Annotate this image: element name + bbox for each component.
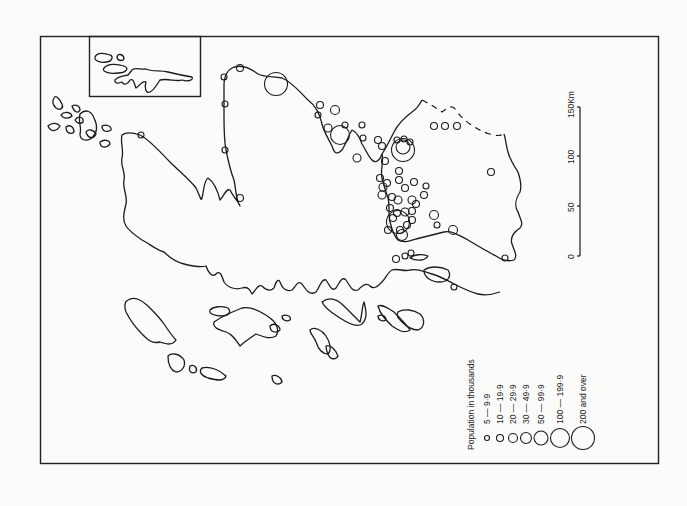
city-marker xyxy=(331,126,350,145)
city-marker xyxy=(402,253,408,259)
legend-label: 200 and over xyxy=(578,374,588,424)
legend-label: 100 — 199·9 xyxy=(555,375,565,424)
city-marker xyxy=(359,122,365,128)
city-marker xyxy=(317,102,324,109)
city-marker xyxy=(402,185,409,192)
city-markers xyxy=(138,65,508,291)
legend-label: 20 — 29·9 xyxy=(508,384,518,424)
scale-tick-150: 150Km xyxy=(566,91,576,118)
city-marker xyxy=(378,191,386,199)
legend-label: 5 — 9·9 xyxy=(482,393,492,424)
legend-symbol xyxy=(551,429,570,448)
legend-symbol xyxy=(497,435,504,442)
city-marker xyxy=(265,73,288,96)
city-marker xyxy=(423,183,429,189)
mainland-coastline xyxy=(121,66,521,294)
city-marker xyxy=(353,154,361,162)
city-marker xyxy=(408,196,416,204)
city-marker xyxy=(222,101,228,107)
city-marker xyxy=(488,169,495,176)
legend-label: 50 — 99·9 xyxy=(536,384,546,424)
legend-symbol xyxy=(534,431,548,445)
city-marker xyxy=(442,123,449,130)
city-marker xyxy=(397,230,408,241)
population-map: 0 50 100 150Km Population in thousands 5… xyxy=(0,0,687,506)
legend-label: 10 — 19·9 xyxy=(495,384,505,424)
city-marker xyxy=(393,256,400,263)
city-marker xyxy=(451,284,457,290)
city-marker xyxy=(409,208,416,215)
city-marker xyxy=(408,250,414,256)
scale-bar: 0 50 100 150Km xyxy=(566,91,580,259)
city-marker xyxy=(394,196,402,204)
legend-symbol xyxy=(509,434,518,443)
city-marker xyxy=(430,211,439,220)
city-marker xyxy=(434,222,440,228)
southern-islands xyxy=(125,255,450,384)
scale-tick-100: 100 xyxy=(566,150,576,164)
legend-label: 30 — 49·9 xyxy=(521,384,531,424)
legend-title: Population in thousands xyxy=(466,359,476,450)
city-marker xyxy=(454,123,461,130)
city-marker xyxy=(390,215,397,222)
city-marker xyxy=(431,123,438,130)
legend-symbol xyxy=(572,427,595,450)
northwest-islands xyxy=(48,97,111,148)
city-marker xyxy=(421,192,428,199)
city-marker xyxy=(411,179,418,186)
city-marker xyxy=(360,135,366,141)
city-marker xyxy=(379,143,386,150)
legend-symbol xyxy=(485,436,490,441)
city-marker xyxy=(396,168,403,175)
city-marker xyxy=(387,205,394,212)
city-marker xyxy=(324,124,332,132)
scale-tick-50: 50 xyxy=(566,202,576,212)
legend-symbol xyxy=(521,433,532,444)
city-marker xyxy=(237,65,244,72)
city-marker xyxy=(379,183,387,191)
city-marker xyxy=(401,208,409,216)
city-marker xyxy=(331,106,340,115)
scale-tick-0: 0 xyxy=(566,254,576,259)
inset-islands xyxy=(95,53,192,92)
city-marker xyxy=(396,177,403,184)
legend: Population in thousands 5 — 9·910 — 19·9… xyxy=(466,359,595,450)
national-border xyxy=(422,100,504,136)
